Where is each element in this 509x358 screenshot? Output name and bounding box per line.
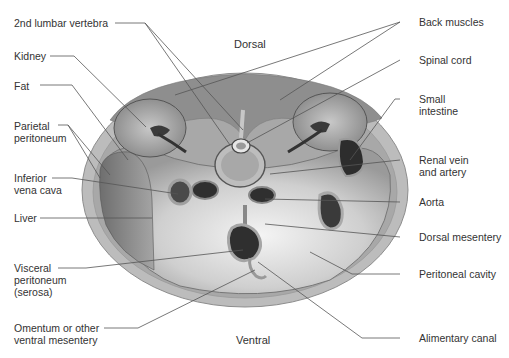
aorta xyxy=(249,187,275,203)
label-2nd-lumbar-vertebra: 2nd lumbar vertebra xyxy=(14,17,108,29)
label-spinal-cord: Spinal cord xyxy=(419,54,472,66)
label-inferior-vena-cava: Inferior vena cava xyxy=(14,172,62,196)
ventral-label: Ventral xyxy=(236,334,270,346)
label-parietal-peritoneum: Parietal peritoneum xyxy=(14,120,67,144)
label-back-muscles: Back muscles xyxy=(419,16,484,28)
label-dorsal-mesentery: Dorsal mesentery xyxy=(419,231,501,243)
label-peritoneal-cavity: Peritoneal cavity xyxy=(419,268,496,280)
label-omentum: Omentum or other ventral mesentery xyxy=(14,322,99,346)
label-renal-vein-artery: Renal vein and artery xyxy=(419,154,469,178)
label-aorta: Aorta xyxy=(419,196,444,208)
label-fat: Fat xyxy=(14,80,29,92)
label-small-intestine: Small intestine xyxy=(419,93,458,117)
label-visceral-peritoneum: Visceral peritoneum (serosa) xyxy=(14,262,67,298)
label-liver: Liver xyxy=(14,212,37,224)
alimentary-canal xyxy=(228,225,260,261)
label-kidney: Kidney xyxy=(14,50,46,62)
anatomy-figure: Dorsal Ventral 2nd lumbar vertebra Kidne… xyxy=(0,0,509,358)
inferior-vena-cava xyxy=(192,181,218,199)
dorsal-label: Dorsal xyxy=(234,38,266,50)
label-alimentary-canal: Alimentary canal xyxy=(419,332,497,344)
